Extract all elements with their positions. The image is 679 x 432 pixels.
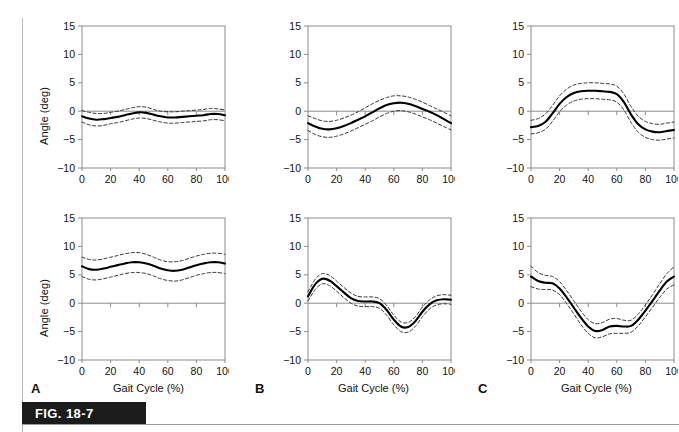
plot-frame: [308, 218, 451, 360]
svg-text:80: 80: [191, 365, 203, 377]
svg-text:0: 0: [528, 173, 534, 185]
x-axis-ticks: 020406080100: [528, 303, 678, 377]
panel-A-bottom: 151050−5−10020406080100: [55, 208, 229, 382]
plot-panel-B-bottom: 151050−5−10020406080100: [281, 208, 455, 382]
series-upper_sd: [82, 252, 225, 261]
svg-text:−10: −10: [57, 354, 75, 366]
y-axis-label-top-text: Angle (deg): [38, 87, 50, 145]
svg-text:−10: −10: [506, 354, 524, 366]
panel-letter-A: A: [31, 381, 40, 396]
svg-text:−5: −5: [289, 133, 301, 145]
y-axis-ticks: 151050−5−10: [283, 20, 308, 174]
svg-text:0: 0: [295, 297, 301, 309]
series-upper_sd: [531, 83, 674, 125]
y-axis-ticks: 151050−5−10: [506, 20, 531, 174]
series-lower_sd: [308, 111, 451, 138]
svg-text:10: 10: [63, 240, 75, 252]
x-axis-label-A: Gait Cycle (%): [113, 382, 184, 394]
svg-text:40: 40: [359, 365, 371, 377]
svg-text:100: 100: [665, 173, 678, 185]
figure-container: Angle (deg) 151050−5−10020406080100 1510…: [0, 0, 679, 432]
svg-text:0: 0: [305, 365, 311, 377]
y-axis-ticks: 151050−5−10: [506, 212, 531, 366]
svg-text:100: 100: [442, 365, 455, 377]
y-axis-ticks: 151050−5−10: [283, 212, 308, 366]
svg-text:15: 15: [289, 20, 301, 32]
svg-text:20: 20: [331, 173, 343, 185]
panel-B-bottom: 151050−5−10020406080100: [281, 208, 455, 382]
svg-text:60: 60: [388, 365, 400, 377]
svg-text:10: 10: [289, 48, 301, 60]
plot-frame: [82, 26, 225, 168]
svg-text:−5: −5: [63, 133, 75, 145]
svg-text:−10: −10: [283, 354, 301, 366]
svg-text:5: 5: [295, 76, 301, 88]
x-axis-ticks: 020406080100: [528, 111, 678, 185]
figure-number-text: FIG. 18-7: [35, 406, 94, 421]
y-axis-label-top: Angle (deg): [38, 87, 50, 145]
svg-text:100: 100: [216, 173, 229, 185]
svg-text:5: 5: [69, 76, 75, 88]
panel-letter-B: B: [255, 381, 264, 396]
panel-letter-C: C: [478, 381, 487, 396]
svg-text:15: 15: [289, 212, 301, 224]
svg-text:5: 5: [518, 76, 524, 88]
svg-text:−10: −10: [506, 162, 524, 174]
series-mean: [308, 103, 451, 130]
svg-text:60: 60: [162, 365, 174, 377]
svg-text:0: 0: [69, 105, 75, 117]
plot-frame: [531, 26, 674, 168]
svg-text:60: 60: [611, 173, 623, 185]
plot-frame: [308, 26, 451, 168]
x-axis-ticks: 020406080100: [79, 111, 229, 185]
y-axis-ticks: 151050−5−10: [57, 212, 82, 366]
svg-text:−5: −5: [289, 325, 301, 337]
plot-frame: [531, 218, 674, 360]
svg-text:5: 5: [518, 268, 524, 280]
figure-number-banner: FIG. 18-7: [22, 402, 146, 425]
svg-text:40: 40: [359, 173, 371, 185]
svg-text:80: 80: [417, 365, 429, 377]
plot-panel-A-bottom: 151050−5−10020406080100: [55, 208, 229, 382]
series-mean: [82, 112, 225, 119]
svg-text:10: 10: [63, 48, 75, 60]
svg-text:−5: −5: [512, 325, 524, 337]
svg-text:80: 80: [640, 365, 652, 377]
svg-text:0: 0: [295, 105, 301, 117]
svg-text:15: 15: [512, 20, 524, 32]
svg-text:0: 0: [518, 297, 524, 309]
series-lower_sd: [82, 272, 225, 281]
series-upper_sd: [82, 107, 225, 114]
svg-text:80: 80: [191, 173, 203, 185]
svg-text:15: 15: [63, 212, 75, 224]
page-margin-rule: [22, 18, 23, 432]
x-axis-ticks: 020406080100: [305, 303, 455, 377]
svg-text:0: 0: [518, 105, 524, 117]
y-axis-label-bottom-text: Angle (deg): [38, 279, 50, 337]
series-upper_sd: [531, 266, 674, 324]
panel-C-bottom: 151050−5−10020406080100: [504, 208, 678, 382]
svg-text:15: 15: [512, 212, 524, 224]
x-axis-ticks: 020406080100: [305, 111, 455, 185]
svg-text:5: 5: [295, 268, 301, 280]
svg-text:−5: −5: [63, 325, 75, 337]
svg-text:0: 0: [79, 173, 85, 185]
svg-text:20: 20: [554, 173, 566, 185]
svg-text:60: 60: [162, 173, 174, 185]
svg-text:20: 20: [331, 365, 343, 377]
plot-frame: [82, 218, 225, 360]
x-axis-label-C: Gait Cycle (%): [561, 382, 632, 394]
svg-text:80: 80: [417, 173, 429, 185]
panel-C-top: 151050−5−10020406080100: [504, 16, 678, 190]
y-axis-label-bottom: Angle (deg): [38, 279, 50, 337]
series-mean: [82, 262, 225, 271]
svg-text:100: 100: [216, 365, 229, 377]
svg-text:40: 40: [133, 365, 145, 377]
panel-B-top: 151050−5−10020406080100: [281, 16, 455, 190]
series-lower_sd: [531, 99, 674, 141]
svg-text:0: 0: [69, 297, 75, 309]
svg-text:−10: −10: [283, 162, 301, 174]
svg-text:40: 40: [133, 173, 145, 185]
plot-panel-C-top: 151050−5−10020406080100: [504, 16, 678, 190]
svg-text:20: 20: [105, 173, 117, 185]
